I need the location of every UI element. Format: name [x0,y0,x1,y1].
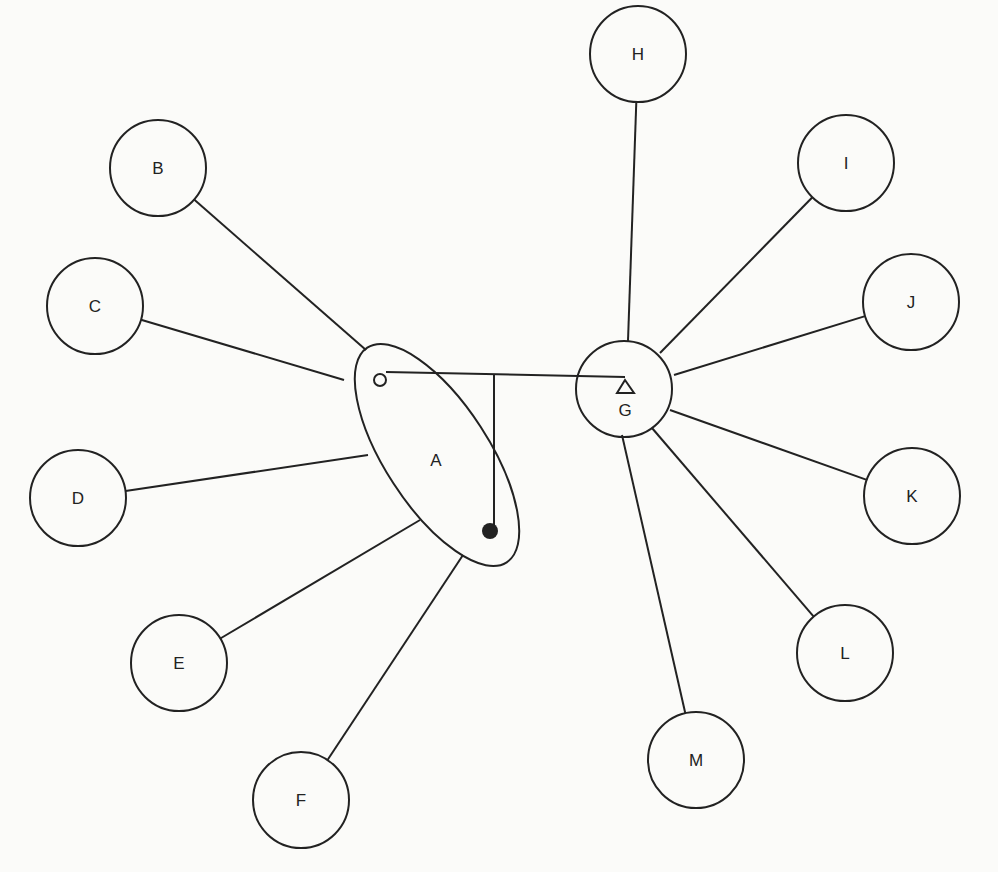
node-c-label: C [89,297,101,316]
node-k: K [864,448,960,544]
edge-k-g [670,410,867,480]
edge-e-a [220,520,420,639]
node-b: B [110,120,206,216]
node-h-label: H [632,45,644,64]
edge-c-a [141,320,344,380]
node-e-label: E [173,654,184,673]
node-j-label: J [907,293,916,312]
node-k-label: K [906,487,918,506]
node-i-label: I [844,154,849,173]
hub-g-circle [576,341,672,437]
node-m-label: M [689,751,703,770]
edge-b-a [194,200,366,350]
node-b-label: B [152,159,163,178]
edge-h-g [628,102,636,341]
edge-m-g [622,435,685,713]
node-f: F [253,752,349,848]
node-l: L [797,605,893,701]
node-f-label: F [296,791,306,810]
hub-a-label: A [430,451,442,470]
hub-g-label: G [618,401,631,420]
edge-f-a [328,555,464,760]
edge-d-a [126,455,369,491]
node-j: J [863,254,959,350]
markers [374,374,634,539]
connector-horizontal-line [386,372,625,377]
network-diagram: A G BCDEFHIJKLM [0,0,998,872]
filled-circle-marker-icon [482,523,498,539]
node-d-label: D [72,489,84,508]
edges [126,102,867,760]
node-i: I [798,115,894,211]
triangle-marker-icon [617,380,634,393]
edge-l-g [652,428,814,617]
edge-j-g [674,316,865,375]
edge-i-g [660,197,812,353]
node-h: H [590,6,686,102]
node-l-label: L [840,644,849,663]
node-m: M [648,712,744,808]
node-e: E [131,615,227,711]
node-d: D [30,450,126,546]
hubs: A G [324,319,672,590]
hub-connector [386,372,625,525]
open-circle-marker-icon [374,374,386,386]
node-c: C [47,258,143,354]
